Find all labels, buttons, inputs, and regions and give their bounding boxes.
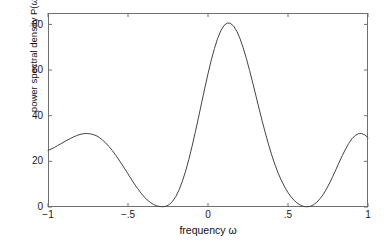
xtick-label-1: −.5 bbox=[121, 210, 135, 220]
x-axis-label: frequency ω bbox=[48, 224, 368, 236]
psd-curve bbox=[48, 23, 368, 207]
ytick-label-20: 20 bbox=[17, 156, 43, 166]
xtick-label-2: 0 bbox=[205, 210, 211, 220]
xtick-label-4: 1 bbox=[365, 210, 371, 220]
xtick-label-0: −1 bbox=[42, 210, 53, 220]
ytick-label-0: 0 bbox=[17, 202, 43, 212]
y-axis-label: power spectral density P(ω) bbox=[28, 0, 39, 151]
figure-canvas: −1 −.5 0 .5 1 0 20 40 60 80 frequency ω … bbox=[0, 0, 387, 246]
plot-area bbox=[48, 13, 368, 207]
tick-marks-group bbox=[48, 13, 368, 207]
xtick-label-3: .5 bbox=[284, 210, 292, 220]
